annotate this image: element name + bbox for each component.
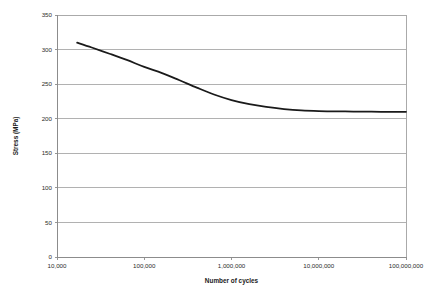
x-axis-title: Number of cycles [205, 277, 259, 285]
y-tick-label: 200 [42, 115, 53, 122]
y-tick-label: 100 [42, 184, 53, 191]
y-tick-label: 250 [42, 80, 53, 87]
chart-canvas: 050100150200250300350 10,000100,0001,000… [0, 0, 438, 303]
sn-curve-chart: 050100150200250300350 10,000100,0001,000… [0, 0, 438, 303]
y-tick-label: 350 [42, 11, 53, 18]
x-tick-label: 10,000,000 [303, 262, 335, 269]
x-tick-label: 10,000 [48, 262, 67, 269]
y-tick-label: 150 [42, 149, 53, 156]
x-tick-label: 100,000 [133, 262, 156, 269]
x-tick-label: 1,000,000 [218, 262, 246, 269]
y-tick-label: 50 [45, 219, 52, 226]
y-axis-title: Stress (MPa) [12, 117, 20, 156]
x-tick-label: 100,000,000 [389, 262, 424, 269]
y-tick-label: 0 [49, 253, 53, 260]
y-tick-label: 300 [42, 46, 53, 53]
chart-background [0, 0, 438, 303]
